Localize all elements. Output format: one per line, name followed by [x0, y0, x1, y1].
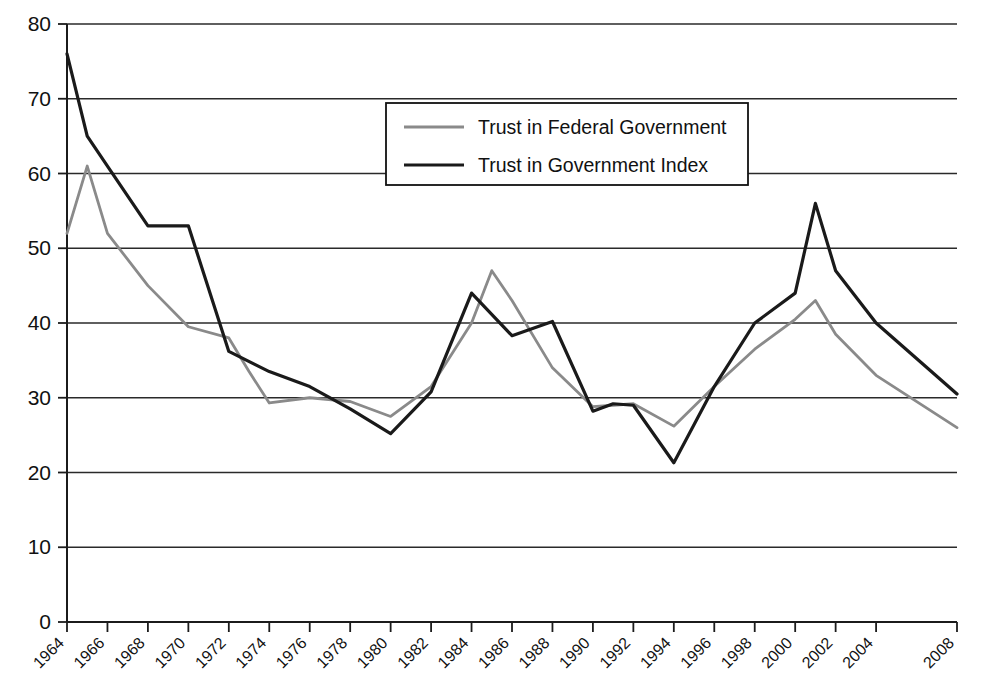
y-tick-label: 20 — [28, 461, 51, 484]
x-tick-label: 1984 — [434, 634, 471, 671]
y-tick-label: 60 — [28, 162, 51, 185]
y-tick-label: 30 — [28, 386, 51, 409]
y-tick-label: 70 — [28, 87, 51, 110]
x-tick-label: 1968 — [111, 634, 148, 671]
x-tick-label: 1994 — [637, 634, 674, 671]
x-tick-label: 1972 — [192, 634, 229, 671]
x-tick-label: 1986 — [475, 634, 512, 671]
x-tick-label: 1988 — [515, 634, 552, 671]
x-tick-label: 1982 — [394, 634, 431, 671]
y-tick-label: 50 — [28, 236, 51, 259]
x-axis-ticks-group — [67, 622, 957, 632]
x-tick-label: 1980 — [354, 634, 391, 671]
chart-legend: Trust in Federal GovernmentTrust in Gove… — [386, 103, 748, 185]
series-line — [67, 166, 957, 428]
x-tick-label: 1990 — [556, 634, 593, 671]
legend-label: Trust in Federal Government — [478, 116, 727, 138]
x-tick-label: 1966 — [70, 634, 107, 671]
y-tick-label: 10 — [28, 535, 51, 558]
x-tick-label: 1976 — [273, 634, 310, 671]
x-tick-label: 2004 — [839, 634, 876, 671]
x-axis-labels-group: 1964196619681970197219741976197819801982… — [30, 634, 957, 671]
x-tick-label: 2000 — [758, 634, 795, 671]
x-tick-label: 1970 — [151, 634, 188, 671]
chart-container: 01020304050607080 1964196619681970197219… — [0, 0, 982, 699]
legend-label: Trust in Government Index — [478, 154, 708, 176]
y-tick-label: 80 — [28, 12, 51, 35]
x-tick-label: 1998 — [718, 634, 755, 671]
y-axis-ticks-group — [58, 24, 67, 622]
x-tick-label: 2008 — [920, 634, 957, 671]
x-tick-label: 1964 — [30, 634, 67, 671]
x-tick-label: 1974 — [232, 634, 269, 671]
line-chart: 01020304050607080 1964196619681970197219… — [0, 0, 982, 699]
x-tick-label: 2002 — [799, 634, 836, 671]
x-tick-label: 1978 — [313, 634, 350, 671]
x-tick-label: 1996 — [677, 634, 714, 671]
y-axis-labels-group: 01020304050607080 — [28, 12, 51, 633]
x-tick-label: 1992 — [596, 634, 633, 671]
y-tick-label: 0 — [39, 610, 51, 633]
y-tick-label: 40 — [28, 311, 51, 334]
